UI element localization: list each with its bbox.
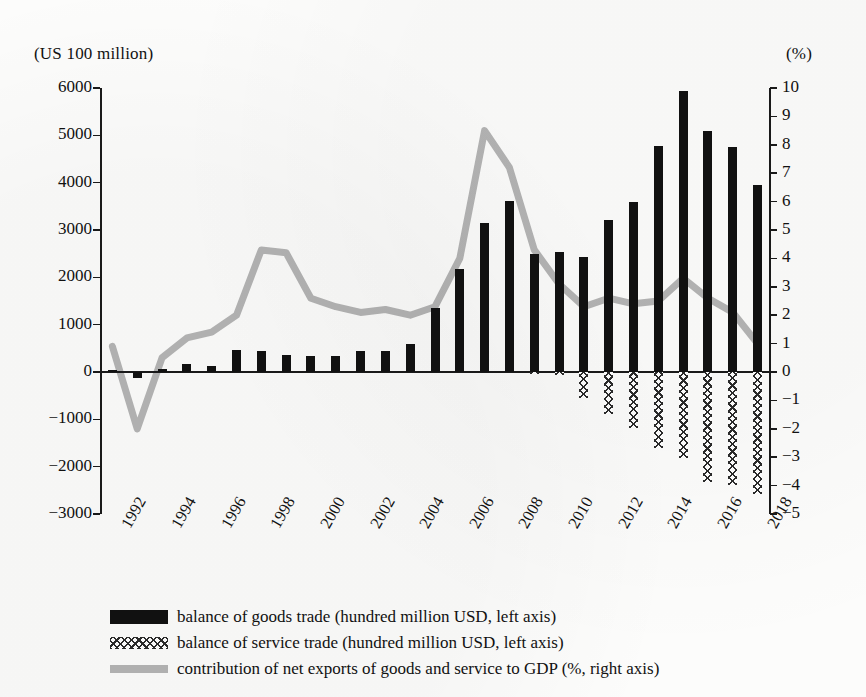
left-axis-tick-label: 2000	[58, 266, 92, 286]
left-axis-tick-mark	[93, 229, 100, 231]
x-axis-tick-label: 2016	[713, 493, 747, 532]
left-axis-tick-label: 5000	[58, 124, 92, 144]
left-axis-tick-mark	[93, 419, 100, 421]
left-axis-tick-label: −3000	[48, 503, 92, 523]
left-axis-tick-label: 1000	[58, 314, 92, 334]
bar-service-trade	[728, 372, 737, 485]
bar-goods-trade	[530, 254, 539, 372]
gdp-contribution-line	[100, 88, 770, 514]
bar-service-trade	[555, 372, 564, 375]
left-axis-tick-mark	[93, 135, 100, 137]
right-axis-tick-label: −3	[782, 446, 800, 466]
bar-goods-trade	[604, 220, 613, 372]
right-axis-tick-label: 5	[782, 219, 791, 239]
right-axis-tick-mark	[770, 258, 777, 260]
right-axis-tick-label: 0	[782, 361, 791, 381]
plot-area: 6000500040003000200010000−1000−2000−3000…	[100, 88, 770, 514]
x-axis-tick-label: 2004	[415, 493, 449, 532]
right-axis-tick-label: −4	[782, 475, 800, 495]
bar-goods-trade	[753, 185, 762, 372]
left-axis-tick-label: −2000	[48, 456, 92, 476]
bar-goods-trade	[108, 370, 117, 372]
left-axis-tick-mark	[93, 324, 100, 326]
left-axis-tick-mark	[93, 277, 100, 279]
bar-goods-trade	[406, 344, 415, 372]
bar-goods-trade	[703, 131, 712, 372]
left-axis-tick-label: −1000	[48, 408, 92, 428]
left-axis-tick-label: 3000	[58, 219, 92, 239]
chart-legend: balance of goods trade (hundred million …	[110, 604, 850, 682]
bar-service-trade	[629, 372, 638, 428]
right-axis-tick-label: 9	[782, 105, 791, 125]
bar-service-trade	[530, 372, 539, 374]
bar-goods-trade	[306, 356, 315, 372]
service-bar-swatch-icon	[110, 637, 168, 649]
bar-service-trade	[753, 372, 762, 494]
goods-bar-swatch-icon	[110, 610, 168, 624]
left-axis-tick-mark	[93, 513, 100, 515]
right-axis-tick-mark	[770, 144, 777, 146]
right-axis-tick-label: 2	[782, 304, 791, 324]
bar-goods-trade	[654, 146, 663, 372]
bar-goods-trade	[629, 202, 638, 372]
x-axis-tick-label: 1996	[217, 493, 251, 532]
x-axis-tick-label: 2008	[514, 493, 548, 532]
legend-item-gdp-line: contribution of net exports of goods and…	[110, 656, 850, 682]
bar-goods-trade	[555, 252, 564, 372]
legend-label-gdp-line: contribution of net exports of goods and…	[177, 659, 659, 679]
right-axis-tick-mark	[770, 343, 777, 345]
x-axis-tick-label: 2002	[366, 493, 400, 532]
right-axis-tick-label: 6	[782, 191, 791, 211]
bar-goods-trade	[505, 201, 514, 372]
right-axis-tick-mark	[770, 314, 777, 316]
bar-goods-trade	[431, 308, 440, 372]
chart-container: (US 100 million) (%) 6000500040003000200…	[0, 0, 866, 697]
bar-goods-trade	[331, 356, 340, 372]
right-axis-tick-label: 7	[782, 162, 791, 182]
bar-goods-trade	[257, 351, 266, 372]
bar-service-trade	[679, 372, 688, 458]
right-axis-tick-mark	[770, 371, 777, 373]
x-axis-tick-label: 2010	[564, 493, 598, 532]
bar-service-trade	[579, 372, 588, 398]
bar-goods-trade	[282, 355, 291, 372]
right-axis-tick-mark	[770, 485, 777, 487]
right-axis-tick-mark	[770, 201, 777, 203]
right-axis-tick-label: 3	[782, 276, 791, 296]
right-axis-tick-mark	[770, 229, 777, 231]
bar-goods-trade	[356, 351, 365, 372]
right-axis-tick-mark	[770, 286, 777, 288]
x-axis-tick-label: 1998	[266, 493, 300, 532]
bar-goods-trade	[455, 269, 464, 372]
gdp-line-swatch-icon	[110, 665, 168, 673]
right-axis-tick-mark	[770, 116, 777, 118]
right-axis-tick-mark	[770, 172, 777, 174]
right-axis-tick-label: 8	[782, 134, 791, 154]
bar-service-trade	[654, 372, 663, 448]
legend-item-goods: balance of goods trade (hundred million …	[110, 604, 850, 630]
legend-label-goods: balance of goods trade (hundred million …	[177, 607, 556, 627]
left-axis-tick-label: 4000	[58, 172, 92, 192]
bar-service-trade	[703, 372, 712, 482]
right-axis-tick-mark	[770, 400, 777, 402]
right-axis-spine	[769, 88, 771, 514]
x-axis-tick-label: 2012	[614, 493, 648, 532]
right-axis-tick-label: 1	[782, 333, 791, 353]
right-axis-tick-label: 4	[782, 247, 791, 267]
x-axis-tick-label: 2018	[763, 493, 797, 532]
bar-goods-trade	[182, 364, 191, 372]
right-axis-tick-mark	[770, 428, 777, 430]
bar-goods-trade	[728, 147, 737, 372]
x-axis-tick-label: 1992	[117, 493, 151, 532]
legend-label-service: balance of service trade (hundred millio…	[177, 633, 564, 653]
right-axis-tick-label: −1	[782, 389, 800, 409]
bar-goods-trade	[480, 223, 489, 372]
x-axis-tick-label: 2000	[316, 493, 350, 532]
x-axis-tick-label: 2006	[465, 493, 499, 532]
x-axis-tick-label: 1994	[167, 493, 201, 532]
bar-goods-trade	[158, 369, 167, 372]
left-axis-tick-mark	[93, 182, 100, 184]
bar-goods-trade	[679, 91, 688, 372]
right-axis-unit-label: (%)	[786, 44, 812, 64]
bar-service-trade	[604, 372, 613, 414]
